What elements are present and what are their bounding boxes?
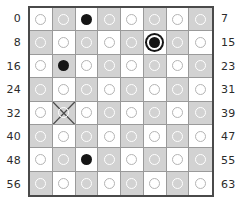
board-square-12[interactable] [121,31,144,54]
board-square-44[interactable] [121,125,144,148]
empty-square-circle [104,107,115,118]
board-square-60[interactable] [121,172,144,195]
row-end-label-2: 23 [216,54,246,78]
empty-square-circle [149,14,160,25]
board-square-7[interactable] [189,8,212,31]
board-square-20[interactable] [121,55,144,78]
empty-square-circle [81,107,92,118]
board-grid [30,8,212,195]
board-square-5[interactable] [144,8,167,31]
board-square-8[interactable] [30,31,53,54]
board-square-31[interactable] [189,78,212,101]
board-square-51[interactable] [98,148,121,171]
board-square-4[interactable] [121,8,144,31]
board-square-26[interactable] [76,78,99,101]
board-square-34[interactable] [76,102,99,125]
board-square-28[interactable] [121,78,144,101]
empty-square-circle [126,131,137,142]
empty-square-circle [104,131,115,142]
board-square-50[interactable] [76,148,99,171]
board-square-11[interactable] [98,31,121,54]
board-square-55[interactable] [189,148,212,171]
empty-square-circle [81,178,92,189]
board-square-52[interactable] [121,148,144,171]
board-square-43[interactable] [98,125,121,148]
board-square-61[interactable] [144,172,167,195]
empty-square-circle [195,84,206,95]
empty-square-circle [149,84,160,95]
board-square-10[interactable] [76,31,99,54]
empty-square-circle [195,37,206,48]
empty-square-circle [35,84,46,95]
empty-square-circle [35,154,46,165]
board-square-59[interactable] [98,172,121,195]
board-square-36[interactable] [121,102,144,125]
board-square-15[interactable] [189,31,212,54]
board-square-17[interactable] [53,55,76,78]
board-square-23[interactable] [189,55,212,78]
board-square-14[interactable] [167,31,190,54]
board-square-46[interactable] [167,125,190,148]
board-square-2[interactable] [76,8,99,31]
board-square-39[interactable] [189,102,212,125]
row-start-label-1: 8 [0,31,26,55]
board-square-35[interactable] [98,102,121,125]
board-square-22[interactable] [167,55,190,78]
row-end-index-labels: 715233139475563 [216,7,246,196]
board-square-32[interactable] [30,102,53,125]
board-square-29[interactable] [144,78,167,101]
board-square-57[interactable] [53,172,76,195]
board-square-41[interactable] [53,125,76,148]
empty-square-circle [104,154,115,165]
board-square-16[interactable] [30,55,53,78]
board-square-0[interactable] [30,8,53,31]
board-square-62[interactable] [167,172,190,195]
board-square-18[interactable] [76,55,99,78]
board-square-27[interactable] [98,78,121,101]
board-square-40[interactable] [30,125,53,148]
empty-square-circle [172,178,183,189]
board-square-19[interactable] [98,55,121,78]
board-square-21[interactable] [144,55,167,78]
row-end-label-5: 47 [216,125,246,149]
board-square-24[interactable] [30,78,53,101]
board-frame [28,6,214,197]
board-square-54[interactable] [167,148,190,171]
board-square-58[interactable] [76,172,99,195]
board-square-33[interactable] [53,102,76,125]
board-square-30[interactable] [167,78,190,101]
board-square-56[interactable] [30,172,53,195]
empty-square-circle [172,14,183,25]
board-square-45[interactable] [144,125,167,148]
empty-square-circle [126,14,137,25]
row-end-label-7: 63 [216,172,246,196]
empty-square-circle [58,154,69,165]
empty-square-circle [126,84,137,95]
empty-square-circle [35,14,46,25]
empty-square-circle [195,14,206,25]
board-square-47[interactable] [189,125,212,148]
highlighted-square-circle [149,37,160,48]
board-square-48[interactable] [30,148,53,171]
empty-square-circle [126,37,137,48]
empty-square-circle [58,178,69,189]
board-square-49[interactable] [53,148,76,171]
empty-square-circle [149,178,160,189]
board-square-63[interactable] [189,172,212,195]
board-square-1[interactable] [53,8,76,31]
empty-square-circle [58,37,69,48]
board-square-6[interactable] [167,8,190,31]
board-square-38[interactable] [167,102,190,125]
empty-square-circle [172,107,183,118]
empty-square-circle [104,60,115,71]
board-square-9[interactable] [53,31,76,54]
board-square-42[interactable] [76,125,99,148]
board-square-53[interactable] [144,148,167,171]
empty-square-circle [195,107,206,118]
board-square-37[interactable] [144,102,167,125]
board-square-13[interactable] [144,31,167,54]
board-square-25[interactable] [53,78,76,101]
row-start-label-4: 32 [0,102,26,126]
board-square-3[interactable] [98,8,121,31]
empty-square-circle [195,131,206,142]
